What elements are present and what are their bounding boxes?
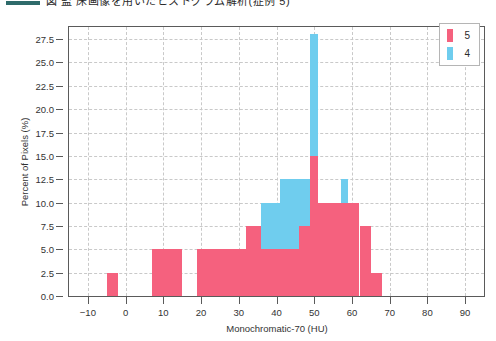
x-tick-mark <box>427 297 428 304</box>
gridline-vertical <box>390 27 391 296</box>
y-axis-title: Percent of Pixels (%) <box>19 62 30 262</box>
y-tick-label: 25.0 <box>36 57 55 68</box>
legend-swatch-icon <box>447 47 453 60</box>
x-tick-mark <box>465 297 466 304</box>
histogram-bar <box>371 273 382 296</box>
y-tick-mark <box>56 179 63 180</box>
histogram-figure: Percent of Pixels (%) 0.02.55.07.510.012… <box>0 9 496 341</box>
histogram-bar <box>280 249 299 296</box>
histogram-bar <box>360 226 371 296</box>
histogram-bar <box>152 249 182 296</box>
figure-caption-strip: 図 監 床画像を用いたヒストグラム解析(症例 5) <box>0 0 496 9</box>
x-tick-mark <box>88 297 89 304</box>
x-tick-label: 90 <box>460 307 471 318</box>
x-axis-title: Monochromatic-70 (HU) <box>68 323 486 334</box>
histogram-bar <box>329 203 359 296</box>
y-tick-label: 15.0 <box>36 150 55 161</box>
legend-label: 5 <box>464 31 470 41</box>
x-tick-label: 0 <box>123 307 128 318</box>
y-tick-mark <box>56 249 63 250</box>
x-tick-mark <box>277 297 278 304</box>
x-tick-label: 80 <box>422 307 433 318</box>
histogram-bar <box>197 249 246 296</box>
x-tick-mark <box>352 297 353 304</box>
x-tick-mark <box>163 297 164 304</box>
y-tick-label: 22.5 <box>36 80 55 91</box>
y-axis: Percent of Pixels (%) 0.02.55.07.510.012… <box>0 26 68 298</box>
x-axis: Monochromatic-70 (HU) −10010203040506070… <box>68 297 486 341</box>
y-tick-mark <box>56 39 63 40</box>
histogram-bar <box>261 249 280 296</box>
x-tick-label: 10 <box>158 307 169 318</box>
y-tick-mark <box>56 133 63 134</box>
gridline-vertical <box>126 27 127 296</box>
y-tick-mark <box>56 62 63 63</box>
y-tick-mark <box>56 156 63 157</box>
x-tick-label: 50 <box>309 307 320 318</box>
x-tick-label: 40 <box>271 307 282 318</box>
chart-legend: 54 <box>439 23 480 66</box>
histogram-bar <box>107 273 118 296</box>
caption-rule <box>6 1 40 5</box>
caption-text: 図 監 床画像を用いたヒストグラム解析(症例 5) <box>46 0 290 8</box>
plot-area <box>68 26 485 297</box>
histogram-bar <box>299 226 310 296</box>
x-tick-label: 20 <box>196 307 207 318</box>
x-tick-mark <box>126 297 127 304</box>
legend-label: 4 <box>464 49 470 59</box>
x-tick-mark <box>239 297 240 304</box>
y-tick-mark <box>56 226 63 227</box>
histogram-bar <box>246 226 261 296</box>
histogram-bar <box>318 203 329 296</box>
histogram-bar <box>310 156 318 296</box>
y-tick-label: 17.5 <box>36 127 55 138</box>
gridline-vertical <box>88 27 89 296</box>
gridline-vertical <box>465 27 466 296</box>
y-tick-mark <box>56 86 63 87</box>
y-tick-mark <box>56 296 63 297</box>
gridline-vertical <box>427 27 428 296</box>
y-tick-mark <box>56 109 63 110</box>
y-tick-label: 5.0 <box>41 244 54 255</box>
y-tick-mark <box>56 273 63 274</box>
legend-entry[interactable]: 4 <box>447 47 470 60</box>
x-tick-mark <box>314 297 315 304</box>
y-tick-label: 0.0 <box>41 291 54 302</box>
x-tick-mark <box>390 297 391 304</box>
y-tick-label: 10.0 <box>36 197 55 208</box>
legend-entry[interactable]: 5 <box>447 29 470 42</box>
y-tick-label: 7.5 <box>41 220 54 231</box>
y-tick-label: 12.5 <box>36 174 55 185</box>
x-tick-label: −10 <box>80 307 96 318</box>
legend-swatch-icon <box>447 29 453 42</box>
y-tick-label: 20.0 <box>36 104 55 115</box>
y-tick-mark <box>56 203 63 204</box>
x-tick-label: 30 <box>233 307 244 318</box>
x-tick-label: 70 <box>384 307 395 318</box>
x-tick-mark <box>201 297 202 304</box>
x-tick-label: 60 <box>347 307 358 318</box>
y-tick-label: 2.5 <box>41 267 54 278</box>
y-tick-label: 27.5 <box>36 34 55 45</box>
